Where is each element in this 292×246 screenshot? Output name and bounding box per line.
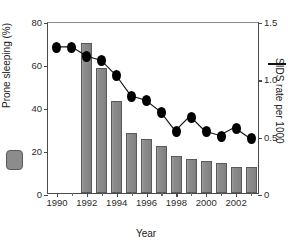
left-axis-tick [44,195,48,196]
data-point-marker [67,42,76,53]
x-axis-tick-label: 1990 [46,198,67,208]
left-axis-tick-label: 80 [31,18,42,28]
data-point-marker [217,131,226,142]
right-axis-tick [258,80,262,81]
x-axis-minor-tick [191,193,192,196]
x-axis-minor-tick [102,193,103,196]
x-axis-minor-tick [72,193,73,196]
x-axis-minor-tick [132,193,133,196]
x-axis-minor-tick [221,193,222,196]
data-point-marker [232,123,241,134]
x-axis-tick-label: 2000 [196,198,217,208]
data-point-marker [127,91,136,102]
right-axis-tick [258,138,262,139]
x-axis-tick-label: 1992 [76,198,97,208]
plot-area: 020406080 00.51.01.5 1990199219941996199… [47,22,259,194]
left-axis-tick [44,23,48,24]
left-axis-title: Prone sleeping (%) [1,23,12,108]
x-axis-tick-label: 1994 [106,198,127,208]
data-point-marker [187,112,196,123]
x-axis-minor-tick [251,193,252,196]
plot-inner: 020406080 00.51.01.5 1990199219941996199… [48,23,258,193]
right-axis-tick-label: 0 [264,190,269,200]
legend-line-marker [268,63,286,65]
data-point-marker [247,133,256,144]
right-axis-tick [258,195,262,196]
right-axis-tick [258,23,262,24]
left-axis-tick-label: 0 [37,190,42,200]
left-axis-tick [44,66,48,67]
x-axis-tick-label: 1996 [136,198,157,208]
right-axis-tick-label: 1.5 [264,18,277,28]
line-series [48,23,258,193]
x-axis-minor-tick [161,193,162,196]
left-axis-tick-label: 20 [31,147,42,157]
x-axis-tick-label: 2002 [226,198,247,208]
legend-bar-swatch [6,150,23,170]
left-axis-tick-label: 40 [31,104,42,114]
data-point-marker [157,107,166,118]
right-axis-title: SIDS rate per 1000 [274,58,285,144]
left-axis-tick [44,109,48,110]
x-axis-title: Year [0,228,292,239]
left-axis-tick [44,152,48,153]
x-axis-tick-label: 1998 [166,198,187,208]
left-axis-tick-label: 60 [31,61,42,71]
chart-figure: 020406080 00.51.01.5 1990199219941996199… [0,0,292,246]
